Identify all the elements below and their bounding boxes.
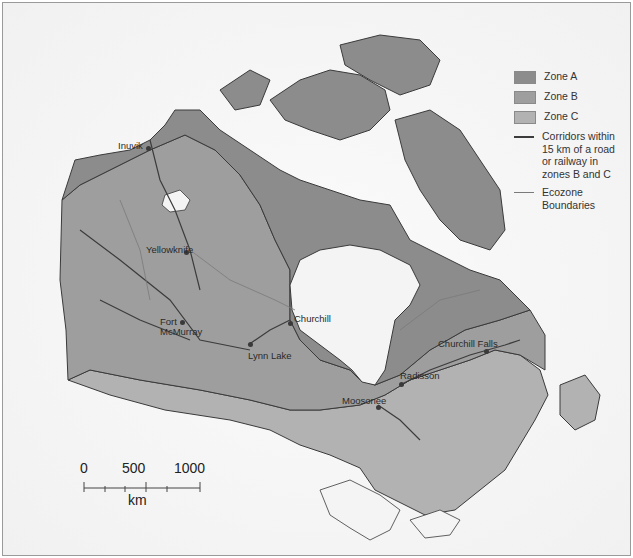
place-label-churchill-falls: Churchill Falls <box>438 338 498 349</box>
legend-item-zone-a: Zone A <box>514 70 624 84</box>
zone-a-swatch <box>514 71 536 84</box>
scale-tick-500: 500 <box>122 460 145 476</box>
legend-item-zone-c: Zone C <box>514 110 624 124</box>
place-label-radisson: Radisson <box>400 370 440 381</box>
place-marker-churchill <box>288 321 293 326</box>
arctic-island <box>220 70 270 110</box>
scale-unit: km <box>128 492 147 508</box>
map-legend: Zone A Zone B Zone C Corridors within 15… <box>514 70 624 217</box>
zone-c-swatch <box>514 111 536 124</box>
scale-tick-0: 0 <box>80 460 88 476</box>
legend-item-zone-b: Zone B <box>514 90 624 104</box>
place-marker-fort-mcmurray <box>180 320 185 325</box>
legend-label: Zone A <box>544 70 577 83</box>
legend-item-ecozone: Ecozone Boundaries <box>514 186 624 211</box>
place-label-fort-mcmurray-2: McMurray <box>160 326 202 337</box>
place-label-yellowknife: Yellowknife <box>146 244 193 255</box>
legend-label: Zone B <box>544 90 578 103</box>
place-marker-radisson <box>399 382 404 387</box>
place-marker-lynn-lake <box>248 342 253 347</box>
place-marker-churchill-falls <box>484 349 489 354</box>
scale-bar: 0 500 1000 km <box>78 460 208 520</box>
place-label-lynn-lake: Lynn Lake <box>248 350 292 361</box>
legend-label: Zone C <box>544 110 578 123</box>
great-lakes <box>410 510 460 538</box>
scale-tick-1000: 1000 <box>174 460 205 476</box>
place-label-moosonee: Moosonee <box>342 395 386 406</box>
legend-item-corridors: Corridors within 15 km of a road or rail… <box>514 130 624 180</box>
corridor-line-swatch <box>514 136 534 138</box>
ecozone-line-swatch <box>514 192 534 193</box>
place-marker-inuvik <box>146 146 151 151</box>
baffin-island <box>395 110 505 250</box>
zone-b-swatch <box>514 91 536 104</box>
place-label-inuvik: Inuvik <box>118 140 143 151</box>
legend-label: Corridors within 15 km of a road or rail… <box>542 130 622 180</box>
newfoundland <box>560 375 600 430</box>
place-label-churchill: Churchill <box>294 313 331 324</box>
legend-label: Ecozone Boundaries <box>542 186 612 211</box>
